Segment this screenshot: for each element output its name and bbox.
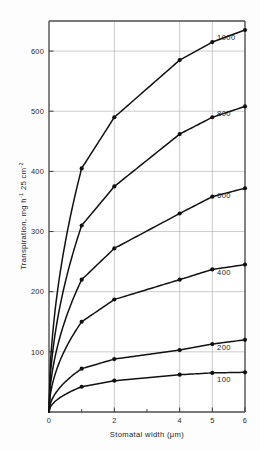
data-point-1000-x5 [210,40,214,44]
series-label-400: 400 [217,268,231,277]
y-tick-label: 300 [31,227,44,236]
data-point-800-x5 [210,115,214,119]
x-tick-label: 5 [210,416,214,425]
x-tick-label: 0 [47,416,51,425]
data-point-1000-x6 [243,28,247,32]
data-point-600-x5 [210,195,214,199]
y-tick-label: 100 [31,348,44,357]
y-axis-title-main: Transpiration, mg h [19,198,28,270]
data-point-100-x6 [243,370,247,374]
data-point-200-x6 [243,338,247,342]
data-point-600-x1 [80,278,84,282]
data-point-100-x2 [112,379,116,383]
y-axis-title-mid: 25 cm [19,168,28,193]
y-axis-title: Transpiration, mg h-1 25 cm-2 [18,162,28,270]
series-label-600: 600 [217,191,231,200]
data-point-800-x1 [80,223,84,227]
series-label-800: 800 [217,109,231,118]
data-point-200-x1 [80,367,84,371]
data-point-200-x5 [210,342,214,346]
svg-text:Transpiration, mg h-1 25 cm-2: Transpiration, mg h-1 25 cm-2 [18,162,28,270]
series-label-100: 100 [217,375,231,384]
data-point-800-x6 [243,104,247,108]
x-axis-tick-labels: 02456 [47,416,247,425]
y-tick-label: 400 [31,167,44,176]
data-point-400-x1 [80,320,84,324]
data-point-100-x4 [178,373,182,377]
x-tick-label: 4 [178,416,182,425]
transpiration-line-chart: 02456 100200300400500600 100080060040020… [0,0,260,450]
plot-background [49,21,245,412]
x-tick-label: 6 [243,416,247,425]
y-tick-label: 200 [31,287,44,296]
series-label-1000: 1000 [217,33,236,42]
data-point-1000-x2 [112,115,116,119]
data-point-100-x1 [80,385,84,389]
x-tick-label: 2 [112,416,116,425]
data-point-400-x5 [210,267,214,271]
series-label-200: 200 [217,343,231,352]
y-axis-title-sup2: -2 [18,162,24,168]
data-point-600-x6 [243,186,247,190]
data-point-1000-x4 [178,58,182,62]
x-axis-title: Stomatal width (μm) [110,430,184,439]
data-point-400-x6 [243,263,247,267]
data-point-100-x5 [210,371,214,375]
y-tick-label: 600 [31,47,44,56]
data-point-800-x4 [178,132,182,136]
data-point-1000-x1 [80,166,84,170]
data-point-200-x2 [112,357,116,361]
data-point-200-x4 [178,348,182,352]
y-tick-label: 500 [31,107,44,116]
data-point-400-x2 [112,297,116,301]
data-point-400-x4 [178,278,182,282]
data-point-600-x4 [178,211,182,215]
data-point-800-x2 [112,184,116,188]
chart-figure: 02456 100200300400500600 100080060040020… [0,0,260,450]
data-point-600-x2 [112,246,116,250]
y-axis-tick-labels: 100200300400500600 [31,47,44,357]
